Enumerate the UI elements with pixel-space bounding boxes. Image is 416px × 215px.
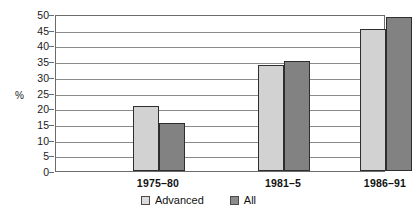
gridline: [56, 142, 384, 143]
y-axis-tick-mark: [49, 156, 54, 157]
gridline: [56, 110, 384, 111]
y-axis-tick-mark: [49, 94, 54, 95]
plot-area: [55, 15, 385, 172]
legend-swatch-all: [230, 196, 239, 205]
gridline: [56, 32, 384, 33]
y-axis-tick-label: 10: [25, 136, 49, 146]
y-axis-tick-mark: [49, 46, 54, 47]
bar-all-1: [284, 61, 310, 171]
gridline: [56, 95, 384, 96]
legend-swatch-advanced: [141, 196, 150, 205]
bar-advanced-1: [258, 65, 284, 171]
y-axis-tick-mark: [49, 31, 54, 32]
y-axis-tick-label: 5: [25, 151, 49, 161]
bar-all-2: [386, 17, 412, 171]
y-axis-tick-label: 45: [25, 26, 49, 36]
x-axis-tick-label: 1986–91: [345, 177, 416, 189]
bar-all-0: [159, 123, 185, 171]
y-axis-tick-mark: [49, 172, 54, 173]
y-axis-tick-mark: [49, 78, 54, 79]
y-axis-tick-label: 20: [25, 104, 49, 114]
gridline: [56, 63, 384, 64]
y-axis-tick-label: 50: [25, 10, 49, 20]
y-axis-tick-label: 35: [25, 57, 49, 67]
y-axis-tick-label: 40: [25, 41, 49, 51]
y-axis-tick-mark: [49, 125, 54, 126]
y-axis-tick-label: 30: [25, 73, 49, 83]
bar-advanced-0: [133, 106, 159, 171]
y-axis-tick-mark: [49, 15, 54, 16]
y-axis-tick-mark: [49, 62, 54, 63]
y-axis-title: %: [2, 91, 24, 101]
gridline: [56, 47, 384, 48]
legend-label: All: [244, 195, 256, 206]
y-axis-tick-label: 15: [25, 120, 49, 130]
chart-legend: AdvancedAll: [0, 195, 397, 206]
y-axis-tick-mark: [49, 141, 54, 142]
gridline: [56, 157, 384, 158]
legend-item-advanced: Advanced: [141, 195, 204, 206]
y-axis-tick-label: 0: [25, 167, 49, 177]
gridline: [56, 79, 384, 80]
legend-label: Advanced: [155, 195, 204, 206]
x-axis-tick-label: 1981–5: [243, 177, 323, 189]
gridline: [56, 126, 384, 127]
y-axis-tick-label: 25: [25, 89, 49, 99]
x-axis-tick-label: 1975–80: [118, 177, 198, 189]
bar-advanced-2: [360, 29, 386, 171]
legend-item-all: All: [230, 195, 256, 206]
y-axis-tick-mark: [49, 109, 54, 110]
